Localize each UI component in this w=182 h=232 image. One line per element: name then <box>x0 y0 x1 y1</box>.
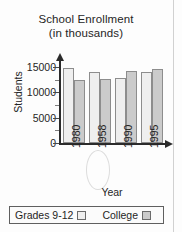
bar-chart: Students 15000 10000 5000 0 <box>0 0 182 232</box>
x-tick-label-1: 1980 <box>70 114 82 148</box>
x-tick-label-2: 1958 <box>96 114 108 148</box>
chart-legend: Grades 9-12 College <box>9 206 164 224</box>
light-square-swatch-icon <box>77 211 86 220</box>
legend-item-grades: Grades 9-12 <box>15 209 86 221</box>
dark-square-swatch-icon <box>142 211 151 220</box>
y-axis-tick-labels: 15000 10000 5000 0 <box>8 0 56 160</box>
x-tick-label-3: 1990 <box>122 114 134 148</box>
legend-label-college: College <box>102 209 138 221</box>
x-tick-label-4: 1995 <box>148 114 160 148</box>
y-tick-label-5000: 5000 <box>10 113 56 123</box>
y-tick-label-10000: 10000 <box>10 87 56 97</box>
scan-oval-artifact <box>86 150 110 190</box>
legend-item-college: College <box>102 209 151 221</box>
y-tick-label-15000: 15000 <box>10 62 56 72</box>
x-axis-title: Year <box>59 186 165 198</box>
legend-label-grades: Grades 9-12 <box>15 209 73 221</box>
y-tick-label-0: 0 <box>10 138 56 148</box>
chart-page: School Enrollment (in thousands) Student… <box>0 0 182 232</box>
